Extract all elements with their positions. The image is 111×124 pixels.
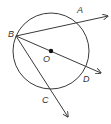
label-B: B — [8, 29, 14, 39]
label-D: D — [83, 74, 90, 84]
label-C: C — [42, 95, 49, 105]
geometry-diagram: A B C D O — [0, 0, 111, 124]
label-A: A — [76, 5, 83, 15]
label-O: O — [43, 54, 50, 64]
center-point-O — [49, 49, 53, 53]
